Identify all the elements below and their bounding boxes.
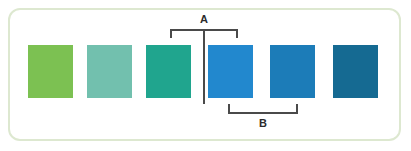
bracket-a-left-tick xyxy=(170,29,172,38)
bracket-a-right-tick xyxy=(236,29,238,38)
bracket-a-center-pointer-line xyxy=(203,29,205,104)
bracket-b-horizontal-line xyxy=(228,112,298,114)
color-swatch-4 xyxy=(208,45,253,98)
color-swatch-2 xyxy=(87,45,132,98)
bracket-b-label: B xyxy=(247,117,279,129)
color-swatch-3 xyxy=(146,45,191,98)
color-swatch-5 xyxy=(270,45,315,98)
color-swatch-6 xyxy=(333,45,378,98)
figure-root: A B xyxy=(0,0,411,151)
bracket-b-left-tick xyxy=(228,104,230,113)
bracket-b-right-tick xyxy=(296,104,298,113)
color-swatch-1 xyxy=(28,45,73,98)
bracket-a-label: A xyxy=(188,13,220,25)
